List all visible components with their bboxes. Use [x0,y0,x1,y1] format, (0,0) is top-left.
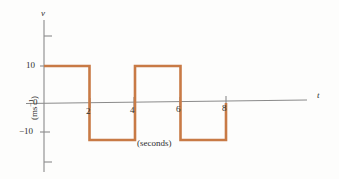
x-axis-name-label: t [317,91,320,100]
x-axis-unit-label: (seconds) [137,139,172,148]
y-tick-label-neg10: −10 [19,127,33,136]
x-tick-label-2: 2 [86,107,91,116]
velocity-time-graph-figure: v t (ms−1) 10 0 −10 2 4 6 8 (seconds) [0,0,339,179]
plot-canvas [0,0,339,179]
x-axis-line [26,100,307,104]
y-axis-name-label: v [41,9,45,18]
x-tick-label-6: 6 [176,105,181,114]
x-tick-label-4: 4 [130,106,135,115]
x-tick-label-8: 8 [222,104,227,113]
y-tick-label-10: 10 [26,61,35,70]
y-unit-open: (ms [29,107,39,121]
y-tick-label-0: 0 [33,98,38,107]
